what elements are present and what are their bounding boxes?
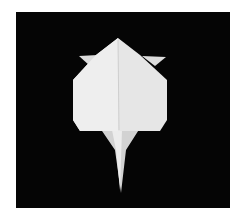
body-left-shade (73, 38, 118, 131)
origami-figure (0, 0, 251, 224)
